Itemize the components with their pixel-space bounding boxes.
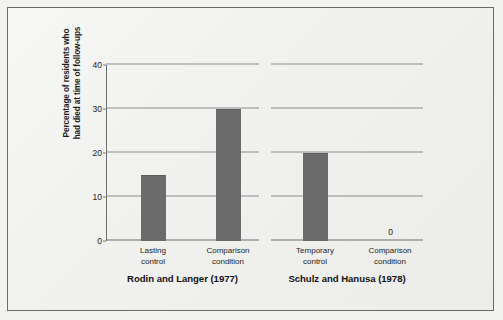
- gridline-30: [271, 108, 423, 109]
- category-label-temporary-control: Temporary control: [282, 246, 348, 267]
- bar-comparison-condition[interactable]: [216, 109, 241, 241]
- bar-lasting-control[interactable]: [141, 175, 166, 241]
- gridline-0: [271, 240, 423, 241]
- y-axis-line: [106, 65, 107, 241]
- category-label-comparison-condition: Comparison condition: [195, 246, 261, 267]
- figure-frame: Percentage of residents who had died at …: [7, 7, 494, 311]
- category-label-line-2: control: [120, 257, 186, 268]
- y-tick-label-0: 0: [97, 236, 102, 246]
- category-label-line-2: condition: [195, 257, 261, 268]
- gridline-20: [271, 152, 423, 153]
- category-label-line-1: Temporary: [282, 246, 348, 257]
- category-label-line-2: control: [282, 257, 348, 268]
- y-axis-title-line-2: had died at time of follow-ups: [72, 27, 83, 140]
- category-label-comparison-condition: Comparison condition: [357, 246, 423, 267]
- y-tick-label-30: 30: [93, 104, 102, 114]
- plot-area: 0 10 20 30 40 Lasting control: [106, 65, 428, 241]
- category-label-line-2: condition: [357, 257, 423, 268]
- y-axis-title-line-1: Percentage of residents who: [61, 29, 72, 138]
- category-label-line-1: Comparison: [357, 246, 423, 257]
- y-tick-label-40: 40: [93, 60, 102, 70]
- bar-temporary-control[interactable]: [303, 153, 328, 241]
- study-caption-rodin-langer: Rodin and Langer (1977): [106, 273, 259, 284]
- category-label-line-1: Comparison: [195, 246, 261, 257]
- category-label-lasting-control: Lasting control: [120, 246, 186, 267]
- gridline-40: [271, 64, 423, 65]
- value-label-comparison-condition: 0: [378, 227, 403, 237]
- y-axis-title: Percentage of residents who had died at …: [55, 0, 89, 173]
- panel-rodin-langer: Lasting control Comparison condition Rod…: [106, 65, 259, 241]
- study-caption-schulz-hanusa: Schulz and Hanusa (1978): [271, 273, 423, 284]
- gridline-40: [106, 64, 259, 65]
- y-tick-label-20: 20: [93, 148, 102, 158]
- panel-schulz-hanusa: 0 Temporary control Comparison condition…: [271, 65, 423, 241]
- y-tick-label-10: 10: [93, 192, 102, 202]
- gridline-10: [271, 196, 423, 197]
- category-label-line-1: Lasting: [120, 246, 186, 257]
